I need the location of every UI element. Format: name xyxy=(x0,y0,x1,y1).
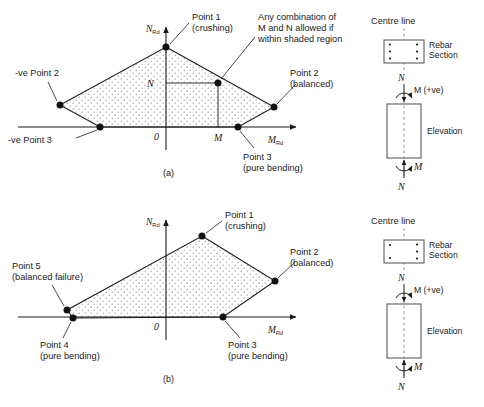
panel-b-point-2-label: Point 2 (balanced) xyxy=(290,247,333,268)
panel-a-elevation-label: Elevation xyxy=(427,126,463,136)
panel-b-point-5-leader xyxy=(52,285,64,306)
panel-a-n-axis-label: NRd xyxy=(145,24,160,35)
panel-b-point-1-leader xyxy=(206,221,222,233)
panel-a-m-value-label: M xyxy=(213,132,223,143)
panel-a-point-2-marker xyxy=(271,104,278,111)
panel-a-point-1-label: Point 1 (crushing) xyxy=(192,12,233,33)
panel-a-neg-point-3-leader xyxy=(76,130,97,138)
panel-b-moment-top-label: M (+ve) xyxy=(414,285,444,295)
panel-a-note-leader xyxy=(221,37,255,79)
panel-b-centre-line-label: Centre line xyxy=(371,216,415,226)
panel-a-centre-line-label: Centre line xyxy=(371,16,415,26)
panel-b-elevation-label: Elevation xyxy=(427,326,463,336)
panel-b: NRd MRd 0 Point 1 (crushing) Point 2 (ba… xyxy=(12,210,333,384)
panel-b-point-3-leader xyxy=(225,321,240,338)
panel-b-n-axis-label: NRd xyxy=(145,217,160,228)
panel-a-axial-top-label: N xyxy=(397,72,406,83)
panel-a-moment-bottom-label: M xyxy=(413,161,423,172)
panel-a-point-3-label: Point 3 (pure bending) xyxy=(243,152,303,173)
panel-a-column-diagram: Centre line Rebar Section N M (+ve) xyxy=(371,16,463,192)
panel-a-point-3-leader xyxy=(240,131,254,148)
panel-b-origin-label: 0 xyxy=(154,321,159,332)
panel-b-point-2-marker xyxy=(272,278,279,285)
panel-b-axial-top-label: N xyxy=(397,272,406,283)
panel-b-point-3-label: Point 3 (pure bending) xyxy=(228,340,288,361)
panel-b-point-5-label: Point 5 (balanced failure) xyxy=(12,261,83,282)
panel-a-point-2-label: Point 2 (balanced) xyxy=(290,68,333,89)
panel-a-point-1-leader xyxy=(170,23,189,44)
panel-b-point-4-leader xyxy=(63,322,71,338)
panel-a-m-axis-label: MRd xyxy=(267,135,283,146)
panel-a-n-value-label: N xyxy=(146,78,155,89)
interaction-diagram-figure: NRd MRd 0 N M Point 1 (crushing) Any com… xyxy=(0,0,484,407)
panel-a-rebar-section-label: Rebar Section xyxy=(429,40,458,60)
panel-a-point-3-marker xyxy=(235,124,242,131)
panel-a-neg-point-3-label: -ve Point 3 xyxy=(8,135,52,145)
panel-b-point-4-marker xyxy=(70,315,77,322)
panel-b-point-1-marker xyxy=(199,233,206,240)
panel-a-neg-point-2-marker xyxy=(57,102,64,109)
panel-b-caption: (b) xyxy=(163,374,174,384)
panel-b-m-axis-label: MRd xyxy=(267,325,283,336)
panel-b-axial-bottom-label: N xyxy=(397,381,406,392)
panel-a-caption: (a) xyxy=(163,168,174,178)
panel-a-neg-point-2-leader xyxy=(48,82,57,101)
panel-a-origin-label: 0 xyxy=(154,131,159,142)
panel-b-moment-bottom-label: M xyxy=(413,361,423,372)
panel-b-point-4-label: Point 4 (pure bending) xyxy=(40,340,100,361)
panel-a: NRd MRd 0 N M Point 1 (crushing) Any com… xyxy=(8,12,342,178)
panel-a-moment-top-label: M (+ve) xyxy=(414,85,444,95)
panel-b-column-diagram: Centre line Rebar Section N M (+ve) xyxy=(371,216,463,392)
panel-b-point-5-marker xyxy=(64,307,71,314)
panel-a-note-label: Any combination of M and N allowed if wi… xyxy=(257,12,342,44)
panel-a-axial-bottom-label: N xyxy=(397,181,406,192)
panel-b-point-1-label: Point 1 (crushing) xyxy=(225,210,266,231)
panel-b-point-3-marker xyxy=(220,314,227,321)
panel-b-rebar-section-label: Rebar Section xyxy=(429,240,458,260)
panel-a-neg-point-2-label: -ve Point 2 xyxy=(15,68,59,78)
panel-a-point-1-marker xyxy=(163,44,170,51)
panel-b-shaded-region xyxy=(67,236,275,318)
panel-a-working-point-marker xyxy=(215,80,222,87)
figure-root: NRd MRd 0 N M Point 1 (crushing) Any com… xyxy=(0,0,484,407)
panel-a-neg-point-3-marker xyxy=(97,124,104,131)
